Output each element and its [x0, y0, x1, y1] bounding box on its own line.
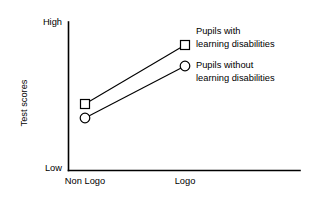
y-axis-low-label: Low — [45, 163, 62, 173]
series-marker-square-logo — [181, 41, 190, 50]
series-label-with-ld-line2: learning disabilities — [196, 39, 275, 49]
line-chart-canvas: High Low Test scores Non Logo Logo Pupil… — [0, 0, 311, 202]
chart-figure: High Low Test scores Non Logo Logo Pupil… — [0, 0, 311, 202]
y-axis-high-label: High — [43, 17, 62, 27]
series-marker-circle-non-logo — [80, 113, 90, 123]
series-marker-circle-logo — [180, 61, 190, 71]
series-line-with-learning-disabilities — [85, 45, 185, 104]
x-tick-label-logo: Logo — [175, 176, 196, 186]
x-tick-label-non-logo: Non Logo — [65, 176, 105, 186]
y-axis-title: Test scores — [19, 79, 29, 126]
series-marker-square-non-logo — [81, 100, 90, 109]
series-label-with-ld-line1: Pupils with — [196, 26, 240, 36]
series-label-without-ld-line1: Pupils without — [196, 60, 254, 70]
series-line-without-learning-disabilities — [85, 66, 185, 118]
series-label-without-ld-line2: learning disabilities — [196, 73, 275, 83]
